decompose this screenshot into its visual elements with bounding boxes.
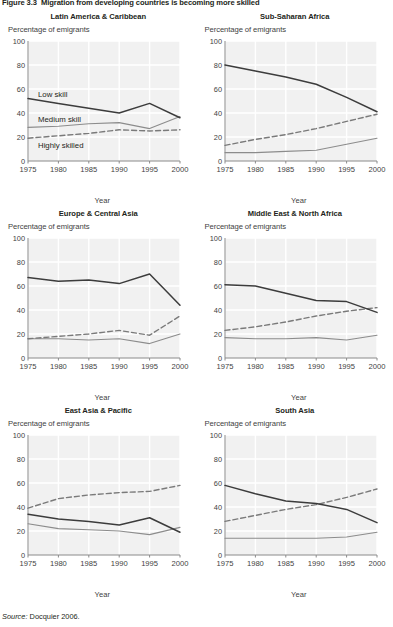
x-axis-label: Year bbox=[197, 589, 393, 601]
svg-text:40: 40 bbox=[213, 306, 221, 315]
y-axis-label: Percentage of emigrants bbox=[8, 24, 197, 35]
plot-area: 020406080100197519801985199019952000 bbox=[205, 232, 393, 392]
svg-text:20: 20 bbox=[213, 527, 221, 536]
source-note: Source: Docquier 2006. bbox=[2, 612, 80, 621]
panel-sub-saharan-africa: Sub-Saharan Africa Percentage of emigran… bbox=[197, 10, 393, 207]
svg-text:1975: 1975 bbox=[20, 362, 37, 371]
panel-title: Sub-Saharan Africa bbox=[197, 10, 393, 24]
svg-text:1980: 1980 bbox=[246, 165, 263, 174]
svg-text:1980: 1980 bbox=[50, 165, 67, 174]
svg-text:1990: 1990 bbox=[307, 362, 324, 371]
svg-text:2000: 2000 bbox=[172, 165, 189, 174]
svg-text:60: 60 bbox=[17, 85, 25, 94]
panel-title: South Asia bbox=[197, 404, 393, 418]
svg-text:80: 80 bbox=[213, 61, 221, 70]
svg-text:60: 60 bbox=[213, 85, 221, 94]
svg-text:1990: 1990 bbox=[111, 559, 128, 568]
y-axis-label: Percentage of emigrants bbox=[8, 418, 197, 429]
svg-text:20: 20 bbox=[17, 133, 25, 142]
panel-grid: Latin America & Caribbean Percentage of … bbox=[0, 10, 393, 614]
panel-latin-america-caribbean: Latin America & Caribbean Percentage of … bbox=[0, 10, 197, 207]
plot-area: 020406080100197519801985199019952000 bbox=[8, 429, 197, 589]
svg-text:1995: 1995 bbox=[141, 559, 158, 568]
svg-text:1995: 1995 bbox=[338, 362, 355, 371]
panel-middle-east-north-africa: Middle East & North Africa Percentage of… bbox=[197, 207, 393, 404]
svg-text:40: 40 bbox=[17, 306, 25, 315]
y-axis-label: Percentage of emigrants bbox=[205, 221, 393, 232]
svg-text:60: 60 bbox=[17, 282, 25, 291]
panel-east-asia-pacific: East Asia & Pacific Percentage of emigra… bbox=[0, 404, 197, 614]
source-text: Docquier 2006. bbox=[30, 612, 80, 621]
svg-text:1980: 1980 bbox=[50, 559, 67, 568]
line-chart-svg: 020406080100197519801985199019952000 bbox=[205, 429, 393, 589]
line-chart-svg: 020406080100197519801985199019952000Low … bbox=[8, 35, 196, 195]
y-axis-label: Percentage of emigrants bbox=[8, 221, 197, 232]
panel-row-3: East Asia & Pacific Percentage of emigra… bbox=[0, 404, 393, 614]
svg-text:1975: 1975 bbox=[20, 559, 37, 568]
svg-text:100: 100 bbox=[209, 37, 221, 46]
svg-text:1985: 1985 bbox=[80, 362, 97, 371]
svg-text:1985: 1985 bbox=[80, 559, 97, 568]
svg-text:1995: 1995 bbox=[338, 559, 355, 568]
panel-europe-central-asia: Europe & Central Asia Percentage of emig… bbox=[0, 207, 197, 404]
plot-area: 020406080100197519801985199019952000 bbox=[205, 35, 393, 195]
svg-text:1990: 1990 bbox=[111, 362, 128, 371]
svg-text:2000: 2000 bbox=[368, 165, 385, 174]
svg-text:100: 100 bbox=[209, 234, 221, 243]
figure-number: Figure 3.3 bbox=[2, 0, 41, 7]
panel-title: Middle East & North Africa bbox=[197, 207, 393, 221]
svg-text:Medium skill: Medium skill bbox=[38, 115, 81, 124]
panel-row-2: Europe & Central Asia Percentage of emig… bbox=[0, 207, 393, 404]
svg-text:60: 60 bbox=[213, 282, 221, 291]
svg-text:1990: 1990 bbox=[111, 165, 128, 174]
svg-text:80: 80 bbox=[213, 258, 221, 267]
figure-title: Migration from developing countries is b… bbox=[41, 0, 259, 7]
x-axis-label: Year bbox=[0, 589, 197, 601]
x-axis-label: Year bbox=[197, 195, 393, 207]
svg-text:80: 80 bbox=[213, 455, 221, 464]
svg-text:1980: 1980 bbox=[246, 362, 263, 371]
svg-text:60: 60 bbox=[17, 479, 25, 488]
svg-text:1995: 1995 bbox=[141, 362, 158, 371]
panel-title: Latin America & Caribbean bbox=[0, 10, 197, 24]
y-axis-label: Percentage of emigrants bbox=[205, 24, 393, 35]
panel-title: Europe & Central Asia bbox=[0, 207, 197, 221]
svg-text:1975: 1975 bbox=[216, 559, 233, 568]
source-label: Source: bbox=[2, 612, 27, 621]
svg-text:1995: 1995 bbox=[338, 165, 355, 174]
svg-text:60: 60 bbox=[213, 479, 221, 488]
figure-header: Figure 3.3Migration from developing coun… bbox=[0, 0, 393, 9]
svg-text:100: 100 bbox=[209, 431, 221, 440]
svg-text:20: 20 bbox=[17, 330, 25, 339]
svg-text:1990: 1990 bbox=[307, 165, 324, 174]
svg-text:40: 40 bbox=[17, 503, 25, 512]
svg-text:1990: 1990 bbox=[307, 559, 324, 568]
x-axis-label: Year bbox=[0, 195, 197, 207]
line-chart-svg: 020406080100197519801985199019952000 bbox=[8, 232, 196, 392]
svg-text:40: 40 bbox=[213, 503, 221, 512]
line-chart-svg: 020406080100197519801985199019952000 bbox=[205, 232, 393, 392]
svg-text:80: 80 bbox=[17, 61, 25, 70]
panel-row-1: Latin America & Caribbean Percentage of … bbox=[0, 10, 393, 207]
svg-text:40: 40 bbox=[213, 109, 221, 118]
plot-area: 020406080100197519801985199019952000Low … bbox=[8, 35, 197, 195]
svg-text:2000: 2000 bbox=[172, 559, 189, 568]
line-chart-svg: 020406080100197519801985199019952000 bbox=[8, 429, 196, 589]
svg-text:1980: 1980 bbox=[50, 362, 67, 371]
panel-title: East Asia & Pacific bbox=[0, 404, 197, 418]
x-axis-label: Year bbox=[197, 392, 393, 404]
svg-text:1985: 1985 bbox=[277, 559, 294, 568]
svg-text:Low skill: Low skill bbox=[38, 90, 68, 99]
svg-text:2000: 2000 bbox=[172, 362, 189, 371]
plot-area: 020406080100197519801985199019952000 bbox=[205, 429, 393, 589]
svg-text:2000: 2000 bbox=[368, 559, 385, 568]
plot-area: 020406080100197519801985199019952000 bbox=[8, 232, 197, 392]
svg-text:20: 20 bbox=[213, 133, 221, 142]
svg-text:80: 80 bbox=[17, 258, 25, 267]
svg-text:1975: 1975 bbox=[216, 362, 233, 371]
y-axis-label: Percentage of emigrants bbox=[205, 418, 393, 429]
svg-text:Highly skilled: Highly skilled bbox=[38, 141, 84, 150]
svg-text:1975: 1975 bbox=[20, 165, 37, 174]
svg-text:80: 80 bbox=[17, 455, 25, 464]
svg-text:100: 100 bbox=[13, 431, 25, 440]
